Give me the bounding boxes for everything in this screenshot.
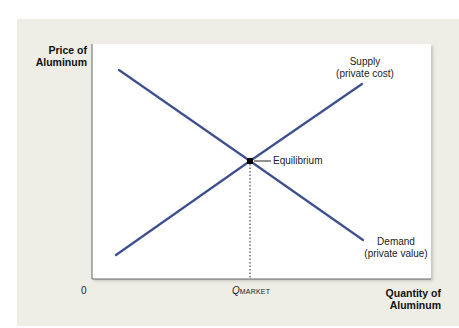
supply-label-line1: Supply xyxy=(330,56,400,68)
demand-label-line1: Demand xyxy=(360,236,432,248)
origin-label: 0 xyxy=(81,285,87,296)
y-axis-label-line2: Aluminum xyxy=(36,56,87,68)
q-market-tick-label: QMARKET xyxy=(232,285,270,296)
q-market-main: Q xyxy=(232,285,240,296)
q-market-subscript: MARKET xyxy=(240,288,270,295)
y-axis-label-line1: Price of xyxy=(36,44,87,56)
x-axis-label-line2: Aluminum xyxy=(386,299,441,311)
demand-curve-lower xyxy=(250,161,363,240)
supply-curve xyxy=(116,161,250,255)
equilibrium-point xyxy=(247,158,253,164)
demand-label: Demand (private value) xyxy=(360,236,432,260)
demand-label-line2: (private value) xyxy=(360,248,432,260)
supply-curve-upper xyxy=(250,84,362,161)
supply-label-line2: (private cost) xyxy=(330,68,400,80)
y-axis-label: Price of Aluminum xyxy=(36,44,87,68)
demand-curve xyxy=(119,70,250,161)
x-axis-label: Quantity of Aluminum xyxy=(386,287,441,311)
x-axis-label-line1: Quantity of xyxy=(386,287,441,299)
supply-label: Supply (private cost) xyxy=(330,56,400,80)
equilibrium-label: Equilibrium xyxy=(273,155,322,167)
